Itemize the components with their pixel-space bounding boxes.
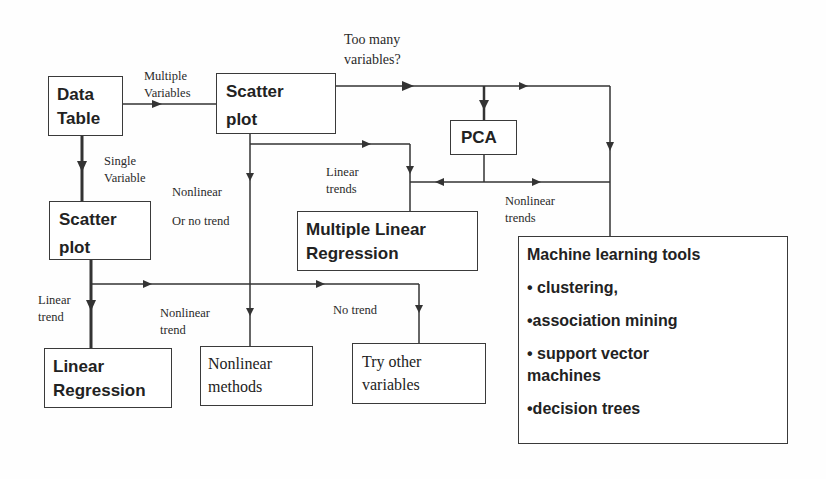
- node-mlr-line1: Multiple Linear: [306, 218, 477, 242]
- label-no-trend-text: No trend: [333, 302, 377, 319]
- label-nonlinear-trends-line1: Nonlinear: [505, 193, 555, 210]
- node-machine-learning-tools: Machine learning tools • clustering, •as…: [518, 236, 788, 444]
- label-nonlinear-trends-line2: trends: [505, 210, 555, 227]
- ml-tools-item-association-mining: •association mining: [527, 311, 787, 330]
- label-nonlinear-or-no-trend: Nonlinear Or no trend: [172, 184, 230, 230]
- label-nonlinear-trend-line1: Nonlinear: [160, 305, 210, 322]
- ml-tools-item-clustering: • clustering,: [527, 278, 787, 297]
- node-multiple-linear-regression: Multiple Linear Regression: [297, 211, 478, 271]
- ml-tools-item-decision-trees: •decision trees: [527, 399, 787, 418]
- label-linear-trend-line1: Linear: [38, 292, 71, 309]
- node-try-other-line1: Try other: [362, 350, 485, 373]
- label-single-variable-line1: Single: [104, 153, 146, 170]
- label-single-variable: Single Variable: [104, 153, 146, 187]
- node-mlr-line2: Regression: [306, 242, 477, 266]
- node-scatter-plot-multi: Scatter plot: [216, 73, 336, 134]
- label-too-many-line1: Too many: [344, 30, 401, 50]
- label-linear-trend: Linear trend: [38, 292, 71, 326]
- node-linear-regression: Linear Regression: [44, 348, 172, 408]
- node-scatter-plot-multi-line2: plot: [226, 108, 335, 132]
- node-nonlinear-methods: Nonlinear methods: [200, 346, 313, 406]
- label-no-trend: No trend: [333, 302, 377, 319]
- label-single-variable-line2: Variable: [104, 170, 146, 187]
- label-linear-trends: Linear trends: [326, 164, 359, 198]
- node-nonlinear-methods-line2: methods: [208, 375, 312, 398]
- node-scatter-plot-single-line1: Scatter: [59, 208, 150, 232]
- ml-tools-item-svm-line1: • support vector: [527, 344, 787, 363]
- label-multiple-variables-line2: Variables: [144, 85, 191, 102]
- node-pca: PCA: [450, 120, 517, 155]
- label-nonlinear-trends: Nonlinear trends: [505, 193, 555, 227]
- node-data-table-line1: Data: [57, 83, 122, 107]
- label-nonlinear-trend-line2: trend: [160, 322, 210, 339]
- node-data-table-line2: Table: [57, 107, 122, 131]
- node-scatter-plot-single-line2: plot: [59, 236, 150, 260]
- node-scatter-plot-single: Scatter plot: [49, 201, 151, 260]
- node-data-table: Data Table: [48, 76, 123, 136]
- label-linear-trends-line2: trends: [326, 181, 359, 198]
- ml-tools-title: Machine learning tools: [527, 245, 787, 264]
- ml-tools-item-svm-line2: machines: [527, 366, 787, 385]
- label-linear-trend-line2: trend: [38, 309, 71, 326]
- flowchart-canvas: Data Table Scatter plot PCA Scatter plot…: [0, 0, 826, 479]
- label-multiple-variables-line1: Multiple: [144, 68, 191, 85]
- label-too-many-variables: Too many variables?: [344, 30, 401, 70]
- node-linear-regression-line2: Regression: [53, 379, 171, 403]
- label-linear-trends-line1: Linear: [326, 164, 359, 181]
- node-linear-regression-line1: Linear: [53, 355, 171, 379]
- node-pca-label: PCA: [461, 126, 516, 150]
- label-nonlinear-or-no-trend-line1: Nonlinear: [172, 184, 230, 201]
- node-scatter-plot-multi-line1: Scatter: [226, 80, 335, 104]
- node-try-other-variables: Try other variables: [352, 343, 486, 404]
- label-multiple-variables: Multiple Variables: [144, 68, 191, 102]
- node-nonlinear-methods-line1: Nonlinear: [208, 352, 312, 375]
- label-nonlinear-trend: Nonlinear trend: [160, 305, 210, 339]
- node-try-other-line2: variables: [362, 373, 485, 396]
- label-too-many-line2: variables?: [344, 50, 401, 70]
- label-nonlinear-or-no-trend-line2: Or no trend: [172, 213, 230, 230]
